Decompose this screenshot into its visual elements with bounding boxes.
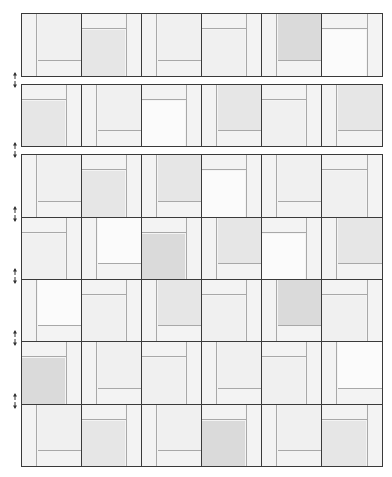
block-frame-strip [97,389,141,404]
block-frame-strip [37,451,81,466]
block-frame-strip [322,155,367,170]
quilt-block [262,342,322,404]
block-frame-strip [82,155,126,170]
block-center-square [202,296,245,341]
block-center-square [322,171,366,217]
block-frame-strip [22,155,37,217]
block-frame-strip [126,280,141,341]
block-frame-strip [126,405,141,466]
block-frame-strip [157,451,201,466]
quilt-block [322,405,382,466]
double-arrow-vertical-icon [12,142,20,158]
quilt-block [142,280,202,341]
block-center-square [202,30,245,76]
block-center-square [98,85,141,131]
block-center-square [82,171,125,217]
quilt-block [22,155,82,217]
block-frame-strip [262,155,277,217]
block-frame-strip [337,389,382,404]
block-frame-strip [82,14,126,29]
block-frame-strip [262,405,277,466]
quilt-block [322,218,382,279]
block-frame-strip [22,218,66,233]
double-arrow-vertical-icon [12,268,20,284]
quilt-block [82,405,142,466]
quilt-block [22,280,82,341]
quilt-block [262,155,322,217]
block-center-square [38,14,81,61]
block-center-square [38,155,81,202]
block-frame-strip [22,405,37,466]
block-frame-strip [322,342,337,404]
block-center-square [38,405,81,451]
block-frame-strip [322,405,367,420]
block-frame-strip [142,155,157,217]
block-center-square [142,234,185,279]
block-frame-strip [277,61,321,76]
block-frame-strip [82,342,97,404]
quilt-block [262,14,322,76]
block-frame-strip [202,155,246,170]
quilt-block [142,218,202,279]
block-frame-strip [262,342,306,357]
quilt-block [22,85,82,146]
block-frame-strip [22,280,37,341]
block-frame-strip [82,405,126,420]
block-center-square [98,218,141,264]
block-frame-strip [217,264,261,279]
quilt-row [21,84,383,147]
block-center-square [98,342,141,389]
block-center-square [22,358,65,404]
block-frame-strip [306,85,321,146]
quilt-block [262,218,322,279]
quilt-block [142,85,202,146]
block-center-square [158,280,201,326]
block-frame-strip [142,342,186,357]
quilt-row [21,13,383,77]
double-arrow-vertical-icon [12,72,20,88]
block-frame-strip [246,155,261,217]
quilt-block [262,85,322,146]
block-center-square [218,218,261,264]
double-arrow-vertical-icon [12,330,20,346]
block-center-square [278,280,321,326]
block-center-square [142,101,185,146]
block-frame-strip [82,218,97,279]
block-frame-strip [82,85,97,146]
quilt-block [142,155,202,217]
block-frame-strip [97,131,141,146]
block-frame-strip [367,280,382,341]
block-frame-strip [322,14,367,29]
quilt-block [202,85,262,146]
block-frame-strip [202,280,246,295]
block-frame-strip [277,326,321,341]
quilt-block [322,342,382,404]
block-frame-strip [22,85,66,100]
quilt-block [322,155,382,217]
block-frame-strip [142,405,157,466]
quilt-block [82,155,142,217]
quilt-block [22,405,82,466]
block-center-square [218,342,261,389]
block-frame-strip [262,218,306,233]
block-center-square [262,358,305,404]
block-frame-strip [126,14,141,76]
block-frame-strip [337,264,382,279]
block-center-square [142,358,185,404]
block-center-square [202,421,245,466]
block-center-square [158,14,201,61]
block-frame-strip [262,280,277,341]
quilt-block [262,405,322,466]
block-center-square [338,342,382,389]
block-frame-strip [142,280,157,341]
double-arrow-vertical-icon [12,393,20,409]
block-center-square [82,30,125,76]
double-arrow-vertical-icon [12,206,20,222]
block-frame-strip [337,131,382,146]
quilt-row [21,279,383,342]
block-center-square [338,218,382,264]
quilt-block [22,14,82,76]
quilt-block [322,85,382,146]
block-frame-strip [262,85,306,100]
block-center-square [22,101,65,146]
